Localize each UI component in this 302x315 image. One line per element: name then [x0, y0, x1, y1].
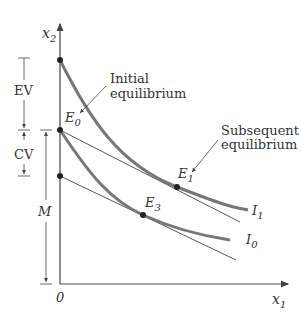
y-axis-label: x2 — [42, 25, 56, 44]
initial-equilibrium-pointer — [80, 86, 106, 113]
e0-label: E0 — [64, 110, 82, 128]
m-label: M — [37, 204, 52, 219]
cv-label: CV — [14, 147, 34, 162]
subsequent-equilibrium-pointer — [192, 140, 218, 172]
i0-label: I0 — [245, 232, 258, 250]
e3-label: E3 — [144, 195, 161, 213]
point-e3 — [140, 212, 146, 218]
point-top-intercept — [57, 57, 63, 63]
initial-equilibrium-label: Initial equilibrium — [110, 71, 186, 101]
x-axis-label: x1 — [272, 291, 286, 310]
origin-label: 0 — [56, 290, 64, 305]
subsequent-equilibrium-label: Subsequent equilibrium — [221, 123, 302, 152]
ev-label: EV — [14, 83, 33, 98]
indifference-curve-i0 — [60, 130, 230, 240]
indifference-curve-i1 — [60, 60, 248, 210]
equivalent-compensating-variation-diagram: x2 x1 0 I1 I0 E0 E1 E3 Initial equilibri… — [0, 0, 302, 315]
point-e0 — [57, 127, 63, 133]
e1-label: E1 — [177, 166, 194, 184]
point-lower-intercept — [57, 173, 63, 179]
point-e1 — [174, 184, 180, 190]
i1-label: I1 — [251, 203, 264, 221]
